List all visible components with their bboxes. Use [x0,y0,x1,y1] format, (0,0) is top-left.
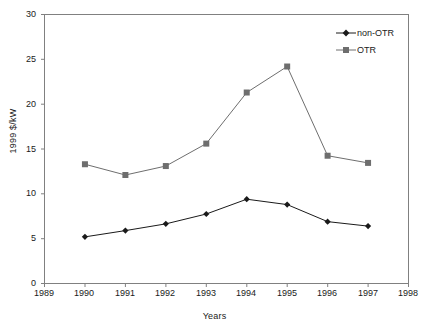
square-icon [343,47,349,53]
data-point-square [163,163,169,169]
plot-frame [45,15,409,284]
data-point-square [122,172,128,178]
data-point-square [325,153,331,159]
data-point-diamond [82,234,88,240]
diamond-icon [343,30,350,37]
data-point-diamond [325,219,331,225]
data-point-square [244,90,250,96]
legend-swatches [336,30,356,53]
plot-area [0,0,429,334]
data-point-diamond [163,221,169,227]
x-tick-marks [45,284,409,288]
series-otr [82,64,371,178]
data-point-diamond [244,196,250,202]
data-point-square [82,161,88,167]
series-non-otr [82,196,371,240]
data-point-square [284,64,290,70]
data-point-diamond [365,223,371,229]
data-point-square [365,160,371,166]
data-point-diamond [284,201,290,207]
chart-figure: 1999 $/kW 30 25 20 15 10 5 0 1989 1990 1… [0,0,429,334]
data-point-diamond [203,211,209,217]
y-tick-marks [41,15,45,284]
data-point-square [203,141,209,147]
data-point-diamond [122,228,128,234]
